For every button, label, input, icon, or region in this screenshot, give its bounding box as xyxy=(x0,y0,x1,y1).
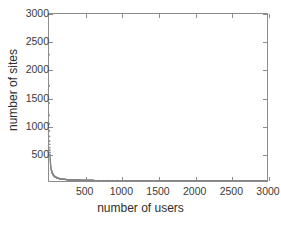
y-tick-right-3000 xyxy=(263,14,267,15)
x-tick-bottom-1500 xyxy=(159,177,160,181)
y-tick-label-2000: 2000 xyxy=(26,64,49,75)
x-tick-label-2500: 2500 xyxy=(220,186,243,197)
x-tick-top-1500 xyxy=(159,14,160,18)
data-points-layer xyxy=(49,14,267,181)
plot-area xyxy=(48,13,268,182)
y-tick-label-1000: 1000 xyxy=(26,120,49,131)
x-tick-top-2000 xyxy=(196,14,197,18)
y-tick-label-3000: 3000 xyxy=(26,8,49,19)
y-tick-right-1500 xyxy=(263,99,267,100)
x-tick-bottom-2500 xyxy=(232,177,233,181)
x-tick-bottom-1000 xyxy=(122,177,123,181)
y-tick-left-3000 xyxy=(49,14,53,15)
x-tick-bottom-500 xyxy=(86,177,87,181)
y-tick-right-1000 xyxy=(263,127,267,128)
y-tick-left-2500 xyxy=(49,42,53,43)
y-tick-right-500 xyxy=(263,155,267,156)
y-tick-left-1000 xyxy=(49,127,53,128)
y-tick-left-500 xyxy=(49,155,53,156)
y-tick-right-2500 xyxy=(263,42,267,43)
scatter-chart-figure: 50010001500200025003000 5001000150020002… xyxy=(0,0,281,227)
y-tick-left-2000 xyxy=(49,70,53,71)
x-tick-label-2000: 2000 xyxy=(183,186,206,197)
x-tick-bottom-2000 xyxy=(196,177,197,181)
y-tick-right-2000 xyxy=(263,70,267,71)
y-tick-left-1500 xyxy=(49,99,53,100)
x-tick-bottom-3000 xyxy=(269,177,270,181)
x-axis-title: number of users xyxy=(0,201,281,215)
x-tick-label-500: 500 xyxy=(76,186,94,197)
x-tick-label-1500: 1500 xyxy=(146,186,169,197)
y-tick-label-2500: 2500 xyxy=(26,36,49,47)
x-tick-top-2500 xyxy=(232,14,233,18)
y-tick-label-500: 500 xyxy=(31,149,49,160)
x-tick-label-3000: 3000 xyxy=(256,186,279,197)
y-tick-label-1500: 1500 xyxy=(26,92,49,103)
x-tick-top-500 xyxy=(86,14,87,18)
x-tick-top-3000 xyxy=(269,14,270,18)
x-tick-label-1000: 1000 xyxy=(110,186,133,197)
scatter-series xyxy=(49,14,267,181)
y-axis-title: number of sites xyxy=(6,30,20,150)
x-tick-top-1000 xyxy=(122,14,123,18)
